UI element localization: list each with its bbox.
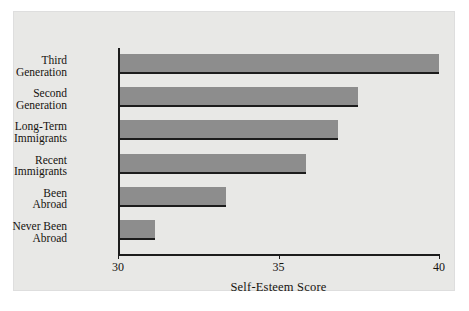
category-label: Second Generation bbox=[0, 88, 67, 111]
bar bbox=[120, 154, 306, 174]
plot-area: Self-Esteem Score Third GenerationSecond… bbox=[118, 48, 439, 256]
x-tick bbox=[439, 254, 440, 259]
x-axis-title: Self-Esteem Score bbox=[118, 280, 439, 295]
category-label: Recent Immigrants bbox=[0, 155, 67, 178]
category-label: Been Abroad bbox=[0, 188, 67, 211]
x-tick bbox=[118, 254, 119, 259]
figure: Self-Esteem Score Third GenerationSecond… bbox=[0, 0, 469, 311]
category-label: Never Been Abroad bbox=[0, 221, 67, 244]
chart-panel: Self-Esteem Score Third GenerationSecond… bbox=[13, 11, 455, 291]
category-label: Long-Term Immigrants bbox=[0, 121, 67, 144]
bar bbox=[120, 54, 439, 74]
x-tick bbox=[279, 254, 280, 259]
x-tick-label: 30 bbox=[98, 260, 138, 275]
x-tick-label: 40 bbox=[419, 260, 459, 275]
bar bbox=[120, 87, 358, 107]
category-label: Third Generation bbox=[0, 55, 67, 78]
bar bbox=[120, 120, 338, 140]
x-tick-label: 35 bbox=[259, 260, 299, 275]
bar bbox=[120, 220, 155, 240]
bar bbox=[120, 187, 226, 207]
